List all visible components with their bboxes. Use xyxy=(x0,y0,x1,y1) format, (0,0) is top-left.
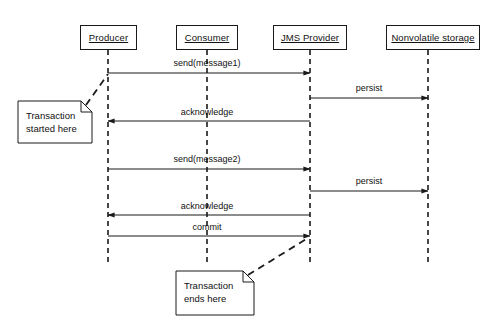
message-label-send1: send(message1) xyxy=(173,58,240,68)
participant-label-consumer: Consumer xyxy=(185,32,230,43)
message-label-persist2: persist xyxy=(356,176,383,186)
messages-layer xyxy=(108,73,428,236)
participant-box-jms[interactable]: JMS Provider xyxy=(273,25,347,50)
message-label-ack1: acknowledge xyxy=(181,107,234,117)
participant-box-producer[interactable]: Producer xyxy=(80,25,137,50)
participant-label-jms: JMS Provider xyxy=(281,32,339,43)
note-text-transaction-ends: Transaction ends here xyxy=(184,280,233,305)
note-text-transaction-started: Transaction started here xyxy=(26,110,77,135)
lifelines-layer xyxy=(108,50,428,262)
note-connectors-layer xyxy=(86,74,308,275)
message-label-commit: commit xyxy=(193,222,222,232)
note-connector-transaction-started xyxy=(86,74,108,105)
participant-label-producer: Producer xyxy=(89,32,128,43)
message-label-persist1: persist xyxy=(356,83,383,93)
message-label-send2: send(message2) xyxy=(173,154,240,164)
participant-box-consumer[interactable]: Consumer xyxy=(176,25,238,50)
sequence-diagram: ProducerConsumerJMS ProviderNonvolatile … xyxy=(0,0,499,324)
participant-label-storage: Nonvolatile storage xyxy=(391,32,474,43)
note-connector-transaction-ends xyxy=(248,238,308,275)
participant-box-storage[interactable]: Nonvolatile storage xyxy=(386,25,480,50)
message-label-ack2: acknowledge xyxy=(181,201,234,211)
